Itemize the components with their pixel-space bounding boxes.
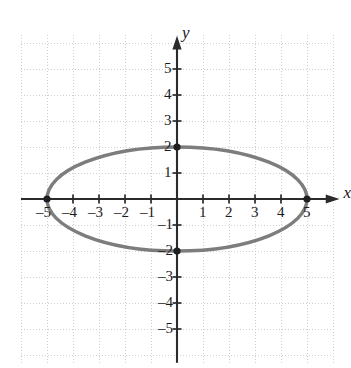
x-tick-label: 3	[251, 205, 259, 220]
y-tick-label: –1	[158, 217, 173, 232]
y-axis-label: y	[182, 24, 190, 41]
x-tick-label: –2	[114, 205, 129, 220]
y-tick-label: –2	[158, 243, 173, 258]
x-tick-label: 4	[277, 205, 285, 220]
x-tick-label: –3	[88, 205, 103, 220]
y-tick-label: –4	[158, 295, 173, 310]
x-tick-label: –1	[140, 205, 155, 220]
y-tick-label: 5	[164, 61, 172, 76]
x-axis-label: x	[343, 184, 351, 201]
y-tick-label: 1	[164, 165, 172, 180]
x-tick-label: 2	[225, 205, 233, 220]
axes-group	[21, 36, 340, 363]
x-tick-label: –5	[36, 205, 51, 220]
x-tick-label: –4	[62, 205, 77, 220]
x-tick-label: 5	[303, 205, 311, 220]
y-tick-label: 2	[164, 139, 172, 154]
y-tick-label: –5	[158, 321, 173, 336]
x-tick-label: 1	[199, 205, 207, 220]
y-tick-label: 3	[164, 113, 172, 128]
y-tick-label: –3	[158, 269, 173, 284]
y-tick-label: 4	[164, 87, 172, 102]
